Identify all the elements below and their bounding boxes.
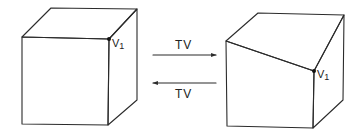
right-cube-top-face — [226, 13, 344, 71]
right-cube-front-face — [226, 41, 314, 128]
right-vertex-label: V1 — [317, 69, 329, 80]
left-vertex-label-sub: 1 — [119, 41, 124, 51]
left-cube — [22, 8, 137, 125]
forward-arrow-label: TV — [175, 39, 192, 51]
left-vertex-dot — [107, 37, 111, 41]
right-vertex-label-sub: 1 — [324, 72, 329, 82]
diagram-canvas — [0, 0, 363, 136]
left-cube-right-face — [108, 9, 137, 125]
left-vertex-label: V1 — [112, 38, 124, 49]
backward-arrow-label: TV — [175, 88, 192, 100]
right-vertex-dot — [312, 69, 316, 73]
left-cube-front-face — [22, 37, 109, 125]
left-cube-top-face — [22, 8, 137, 39]
